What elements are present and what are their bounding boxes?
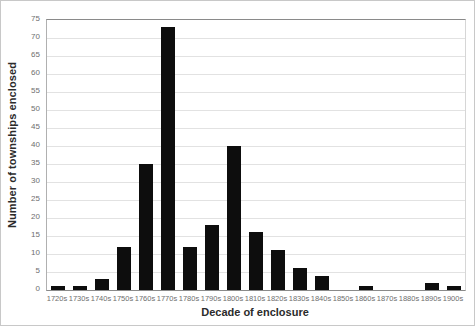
y-axis-tick-45: 45 — [20, 123, 40, 131]
bar-slot-1740s — [91, 20, 113, 290]
bar-1890s — [425, 283, 439, 290]
y-axis-tick-labels: 757065605550454035302520151050 — [23, 19, 43, 289]
bar-chart-figure: Number of townships enclosed 75706560555… — [0, 0, 475, 326]
bar-slot-1780s — [179, 20, 201, 290]
y-axis-tick-5: 5 — [20, 267, 40, 275]
plot-area — [46, 19, 466, 291]
y-axis-tick-60: 60 — [20, 69, 40, 77]
y-axis-tick-75: 75 — [20, 15, 40, 23]
x-axis-title: Decade of enclosure — [46, 306, 464, 318]
bar-1740s — [95, 279, 109, 290]
bar-slot-1760s — [135, 20, 157, 290]
bar-1780s — [183, 247, 197, 290]
bar-slot-1800s — [223, 20, 245, 290]
y-axis-tick-55: 55 — [20, 87, 40, 95]
bar-slot-1850s — [333, 20, 355, 290]
y-axis-tick-65: 65 — [20, 51, 40, 59]
y-axis-tick-70: 70 — [20, 33, 40, 41]
y-axis-tick-10: 10 — [20, 249, 40, 257]
bar-1770s — [161, 27, 175, 290]
y-axis-tick-20: 20 — [20, 213, 40, 221]
y-axis-tick-25: 25 — [20, 195, 40, 203]
y-axis-tick-0: 0 — [20, 285, 40, 293]
bar-slot-1720s — [47, 20, 69, 290]
y-axis-tick-50: 50 — [20, 105, 40, 113]
bar-1820s — [271, 250, 285, 290]
bar-slot-1750s — [113, 20, 135, 290]
bar-slot-1900s — [443, 20, 465, 290]
y-axis-tick-15: 15 — [20, 231, 40, 239]
bar-1860s — [359, 286, 373, 290]
bar-slot-1790s — [201, 20, 223, 290]
bar-1720s — [51, 286, 65, 290]
bar-1800s — [227, 146, 241, 290]
bar-1840s — [315, 276, 329, 290]
bar-1810s — [249, 232, 263, 290]
bars-layer — [47, 20, 465, 290]
bar-slot-1770s — [157, 20, 179, 290]
bar-1750s — [117, 247, 131, 290]
bar-slot-1820s — [267, 20, 289, 290]
y-axis-tick-35: 35 — [20, 159, 40, 167]
bar-slot-1870s — [377, 20, 399, 290]
bar-1760s — [139, 164, 153, 290]
y-axis-tick-30: 30 — [20, 177, 40, 185]
bar-slot-1860s — [355, 20, 377, 290]
bar-1730s — [73, 286, 87, 290]
bar-1830s — [293, 268, 307, 290]
y-axis-tick-40: 40 — [20, 141, 40, 149]
y-axis-title-label: Number of townships enclosed — [6, 62, 18, 228]
bar-slot-1810s — [245, 20, 267, 290]
bar-slot-1880s — [399, 20, 421, 290]
bar-1900s — [447, 286, 461, 290]
bar-slot-1890s — [421, 20, 443, 290]
bar-slot-1830s — [289, 20, 311, 290]
bar-slot-1730s — [69, 20, 91, 290]
bar-1790s — [205, 225, 219, 290]
bar-slot-1840s — [311, 20, 333, 290]
